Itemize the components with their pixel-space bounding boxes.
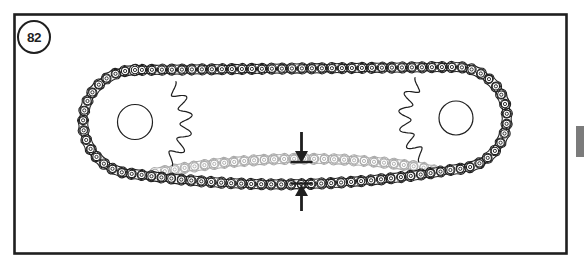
figure-number-badge: 82 — [17, 20, 51, 54]
manual-figure-panel: 82 — [0, 0, 584, 264]
left-sprocket — [118, 81, 193, 166]
right-sprocket — [399, 77, 473, 162]
slack-measurement-arrows — [291, 132, 313, 211]
diagram-border — [15, 15, 567, 254]
sprocket-hub — [118, 105, 153, 140]
sprocket-teeth-outline — [169, 81, 192, 166]
figure-number: 82 — [27, 30, 41, 45]
sprocket-hub — [439, 101, 473, 135]
sprocket-teeth-outline — [399, 77, 422, 162]
slack-chain-position — [150, 153, 438, 178]
drive-chain — [78, 61, 513, 190]
page-edge-tab — [576, 126, 584, 157]
chain-slack-diagram — [0, 0, 584, 264]
